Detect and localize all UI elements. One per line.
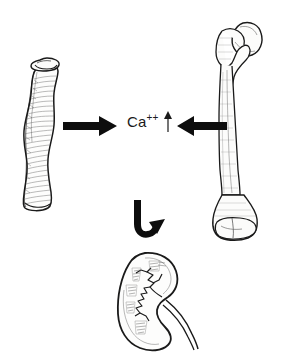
arrow-to-kidney [134,200,165,238]
soft-deformed-bone [23,58,59,211]
normal-femur [213,22,262,240]
arrow-bone-to-blood [63,116,117,136]
calcium-label: Ca++ [127,113,158,129]
calcium-ion-text: Ca [127,113,147,130]
arrow-increase [164,111,172,132]
diagram-canvas: Ca++ [0,0,282,359]
kidney [118,253,198,350]
calcium-charge-text: ++ [147,112,159,123]
diagram-artwork [0,0,282,359]
